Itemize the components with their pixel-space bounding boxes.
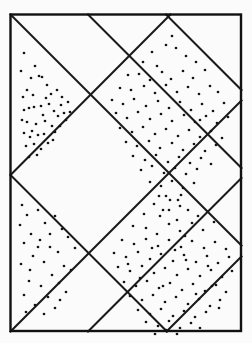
scatter-dot: [154, 333, 157, 336]
scatter-dot: [202, 229, 205, 232]
scatter-dot: [210, 130, 213, 133]
scatter-dot: [25, 145, 28, 148]
scatter-dot: [183, 114, 186, 117]
scatter-dot: [26, 89, 29, 92]
scatter-dot: [145, 105, 148, 108]
scatter-dot: [165, 84, 168, 87]
scatter-dot: [158, 195, 161, 198]
scatter-dot: [149, 79, 152, 82]
scatter-dot: [217, 262, 220, 265]
scatter-dot: [167, 161, 170, 164]
scatter-dot: [169, 199, 172, 202]
scatter-dot: [168, 209, 171, 212]
scatter-dot: [199, 275, 202, 278]
scatter-dot: [157, 325, 160, 328]
scatter-dot: [194, 316, 197, 319]
scatter-dot: [47, 142, 50, 145]
scatter-dot: [199, 327, 202, 330]
scatter-dot: [63, 112, 66, 115]
scatter-dot: [187, 268, 190, 271]
scatter-dot: [179, 101, 182, 104]
scatter-dot: [185, 173, 188, 176]
scatter-dot: [221, 137, 224, 140]
scatter-dot: [36, 154, 39, 157]
scatter-dot: [31, 130, 34, 133]
scatter-dot: [54, 131, 57, 134]
scatter-dot: [140, 169, 143, 172]
scatter-dot: [180, 194, 183, 197]
scatter-dot: [40, 105, 43, 108]
scatter-dot: [41, 76, 44, 79]
scatter-dot: [176, 219, 179, 222]
scatter-dot: [182, 187, 185, 190]
scatter-dot: [165, 329, 168, 332]
scatter-dot: [28, 107, 31, 110]
scatter-dot: [59, 299, 62, 302]
scatter-dot: [54, 215, 57, 218]
scatter-dot: [30, 233, 33, 236]
scatter-dot: [43, 133, 46, 136]
scatter-dot: [210, 269, 213, 272]
scatter-dot: [48, 103, 51, 106]
scatter-dot: [198, 93, 201, 96]
scatter-dot: [19, 224, 22, 227]
scatter-dot: [39, 239, 42, 242]
scatter-dot: [21, 119, 24, 122]
scatter-dot: [125, 256, 128, 259]
scatter-dot: [20, 70, 23, 73]
scatter-dot: [30, 77, 33, 80]
scatter-dot: [195, 261, 198, 264]
scatter-dot: [161, 71, 164, 74]
scatter-dot: [165, 195, 168, 198]
scatter-dot: [171, 35, 174, 38]
scatter-dot: [187, 303, 190, 306]
scatter-dot: [197, 215, 200, 218]
scatter-dot: [61, 96, 64, 99]
scatter-dot: [119, 127, 122, 130]
scatter-dot: [188, 129, 191, 132]
scatter-dot: [32, 94, 35, 97]
scatter-dot: [35, 123, 38, 126]
scatter-dot: [49, 246, 52, 249]
scatter-dot: [42, 114, 45, 117]
scatter-dot: [175, 296, 178, 299]
scatter-dot: [50, 93, 53, 96]
scatter-dot: [155, 154, 158, 157]
scatter-dot: [221, 276, 224, 279]
scatter-dot: [201, 103, 204, 106]
scatter-dot: [154, 92, 157, 95]
scatter-dot: [43, 261, 46, 264]
scatter-dot: [141, 265, 144, 268]
scatter-dot: [119, 87, 122, 90]
scatter-dot: [182, 70, 185, 73]
scatter-dot: [129, 295, 132, 298]
scatter-dot: [176, 91, 179, 94]
scatter-dot: [168, 239, 171, 242]
scatter-dot: [156, 233, 159, 236]
scatter-dot: [44, 120, 47, 123]
scatter-dot: [132, 225, 135, 228]
scatter-dot: [209, 305, 212, 308]
scatter-dot: [26, 121, 29, 124]
scatter-dot: [127, 74, 130, 77]
scatter-dot: [185, 55, 188, 58]
scatter-dot: [37, 209, 40, 212]
scatter-dot: [217, 91, 220, 94]
scatter-dot: [53, 110, 56, 113]
scatter-dot: [160, 185, 163, 188]
scatter-dot: [168, 223, 171, 226]
scatter-dot: [176, 274, 179, 277]
scatter-dot: [193, 143, 196, 146]
scatter-dot: [172, 260, 175, 263]
scatter-dot: [182, 149, 185, 152]
scatter-dot: [34, 304, 37, 307]
scatter-dot: [28, 156, 31, 159]
scatter-dot: [177, 135, 180, 138]
scatter-dot: [44, 222, 47, 225]
scatter-dot: [142, 61, 145, 64]
scatter-dot: [219, 299, 222, 302]
scatter-dot: [38, 75, 41, 78]
scatter-dot: [204, 290, 207, 293]
scatter-dot: [157, 100, 160, 103]
scatter-dot: [153, 203, 156, 206]
